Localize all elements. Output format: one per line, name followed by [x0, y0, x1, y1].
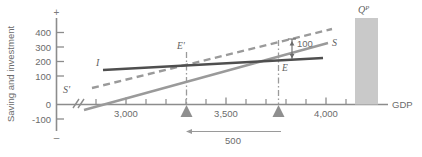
saving-investment-chart: 400 300 200 100 0 -100 + – Saving and in…: [0, 0, 422, 157]
y-tick-label-400: 400: [35, 27, 51, 38]
triangle-marker-e-prime: [181, 105, 193, 117]
y-tick-label-200: 200: [35, 56, 51, 67]
curve-i: [103, 58, 323, 70]
gap-500-arrowhead-left: [186, 129, 192, 134]
axis-minus-sign: –: [54, 132, 60, 143]
gap-500-label: 500: [225, 135, 241, 146]
gap-100-arrowhead-down: [290, 54, 295, 59]
potential-output-bar: [355, 18, 378, 105]
axis-plus-sign: +: [54, 7, 60, 18]
y-axis-tick-labels: 400 300 200 100 0 -100: [32, 27, 51, 125]
x-tick-label-4000: 4,000: [314, 108, 338, 119]
x-tick-label-3500: 3,500: [214, 108, 238, 119]
annotation-gap-500: 500: [186, 129, 281, 146]
x-axis-tick-labels: 3,000 3,500 4,000: [114, 108, 338, 119]
curve-label-s-prime: S': [63, 84, 71, 95]
y-axis-title: Saving and investment: [5, 26, 16, 122]
y-tick-label-0: 0: [46, 99, 51, 110]
annotation-gap-100: 100: [288, 38, 313, 59]
x-tick-label-3000: 3,000: [114, 108, 138, 119]
gap-100-arrowhead-up: [290, 41, 295, 46]
gap-100-label: 100: [297, 38, 313, 49]
x-axis-ticks: [96, 98, 366, 105]
potential-output-label: QP: [358, 4, 369, 15]
y-axis-ticks: [57, 33, 65, 120]
point-label-e: E: [281, 63, 288, 73]
potential-output-label-superscript: P: [364, 4, 369, 11]
axis-break-mark: [73, 99, 84, 108]
y-tick-label-minus100: -100: [32, 114, 51, 125]
drop-lines-group: [187, 40, 279, 105]
y-tick-label-300: 300: [35, 42, 51, 53]
point-label-e-prime: E': [176, 41, 186, 51]
curve-label-i: I: [95, 57, 100, 68]
x-axis-title: GDP: [392, 99, 413, 110]
y-tick-label-100: 100: [35, 71, 51, 82]
curve-label-s: S: [332, 37, 337, 48]
triangle-marker-e: [273, 105, 285, 117]
